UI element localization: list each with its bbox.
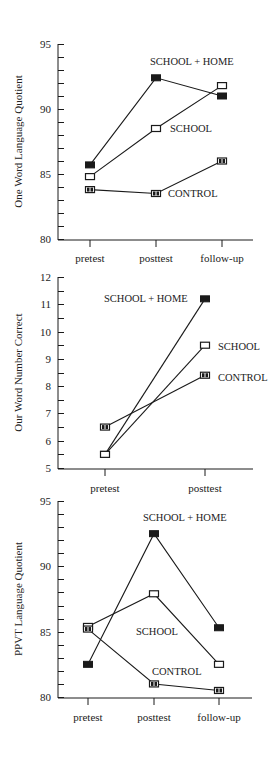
marker-filled-square-icon — [215, 625, 224, 631]
marker-open-square-icon — [101, 451, 110, 457]
series-label-control: CONTROL — [152, 666, 202, 677]
series-label-school: SCHOOL — [218, 341, 260, 352]
figure-svg: 80859095pretestposttestfollow-upOne Word… — [0, 0, 280, 762]
y-tick-label: 9 — [46, 353, 52, 365]
chart-panel-3: 80859095pretestposttestfollow-upPPVT Lan… — [12, 495, 252, 723]
y-axis-title: PPVT Language Quotient — [12, 542, 24, 656]
x-tick-label: pretest — [90, 482, 119, 494]
series-label-control: CONTROL — [168, 188, 218, 199]
x-tick-label: follow-up — [200, 252, 244, 264]
y-axis-title: One Word Language Quotient — [12, 75, 24, 207]
marker-open-square-icon — [150, 591, 159, 597]
y-tick-label: 90 — [40, 560, 52, 572]
marker-filled-square-icon — [152, 75, 161, 81]
series-line-school-home — [90, 78, 222, 165]
series-line-school-home — [105, 299, 205, 455]
figure-stage: 80859095pretestposttestfollow-upOne Word… — [0, 0, 280, 762]
series-label-school-home: SCHOOL + HOME — [104, 293, 188, 304]
marker-open-square-icon — [86, 174, 95, 180]
marker-open-square-icon — [152, 126, 161, 132]
marker-filled-square-icon — [218, 93, 227, 99]
series-label-control: CONTROL — [218, 372, 268, 383]
marker-split-square-icon — [84, 626, 93, 632]
y-tick-label: 10 — [40, 326, 52, 338]
y-tick-label: 11 — [40, 298, 51, 310]
x-tick-label: posttest — [139, 252, 173, 264]
x-tick-label: pretest — [75, 252, 104, 264]
marker-open-square-icon — [218, 83, 227, 89]
marker-split-square-icon — [150, 681, 159, 687]
marker-split-square-icon — [201, 372, 210, 378]
y-tick-label: 80 — [40, 691, 52, 703]
x-tick-label: posttest — [137, 711, 171, 723]
y-tick-label: 5 — [46, 462, 52, 474]
y-tick-label: 85 — [40, 626, 52, 638]
marker-open-square-icon — [201, 342, 210, 348]
y-tick-label: 6 — [46, 435, 52, 447]
series-label-school-home: SCHOOL + HOME — [143, 512, 227, 523]
y-tick-label: 85 — [40, 168, 52, 180]
chart-panel-2: 56789101112pretestposttestOur Word Numbe… — [12, 271, 268, 494]
y-tick-label: 95 — [40, 495, 52, 507]
marker-open-square-icon — [215, 661, 224, 667]
y-tick-label: 8 — [46, 380, 52, 392]
series-label-school-home: SCHOOL + HOME — [150, 56, 234, 67]
marker-filled-square-icon — [84, 661, 93, 667]
series-label-school: SCHOOL — [136, 626, 178, 637]
marker-filled-square-icon — [150, 531, 159, 537]
chart-panel-1: 80859095pretestposttestfollow-upOne Word… — [12, 38, 253, 264]
marker-split-square-icon — [101, 424, 110, 430]
y-tick-label: 95 — [40, 38, 52, 50]
marker-filled-square-icon — [86, 162, 95, 168]
marker-filled-square-icon — [201, 296, 210, 302]
series-line-school — [105, 345, 205, 454]
x-tick-label: follow-up — [197, 711, 241, 723]
series-line-control — [105, 375, 205, 427]
y-tick-label: 7 — [46, 407, 52, 419]
y-axis-title: Our Word Number Correct — [12, 313, 24, 431]
y-tick-label: 90 — [40, 103, 52, 115]
marker-split-square-icon — [86, 187, 95, 193]
y-tick-label: 12 — [40, 271, 51, 283]
series-markers-school-home — [86, 75, 227, 168]
x-tick-label: pretest — [73, 711, 102, 723]
marker-split-square-icon — [218, 158, 227, 164]
series-label-school: SCHOOL — [170, 123, 212, 134]
x-tick-label: posttest — [188, 482, 222, 494]
marker-split-square-icon — [152, 191, 161, 197]
marker-split-square-icon — [215, 687, 224, 693]
y-tick-label: 80 — [40, 233, 52, 245]
